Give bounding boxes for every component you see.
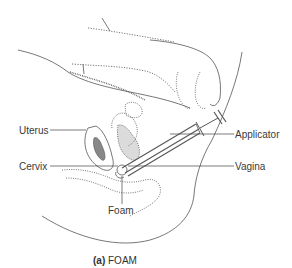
- uterus-label: Uterus: [19, 125, 48, 136]
- foam-label: Foam: [108, 205, 134, 216]
- caption-marker: (a): [93, 255, 105, 266]
- figure-caption: (a) FOAM: [93, 255, 137, 266]
- vagina-label: Vagina: [235, 161, 265, 172]
- cervix-label: Cervix: [19, 161, 47, 172]
- back-contour: [18, 50, 190, 108]
- applicator-label: Applicator: [235, 129, 279, 140]
- caption-text: FOAM: [108, 255, 137, 266]
- foam-applicator-diagram: Uterus Cervix Foam Applicator Vagina (a)…: [0, 0, 292, 268]
